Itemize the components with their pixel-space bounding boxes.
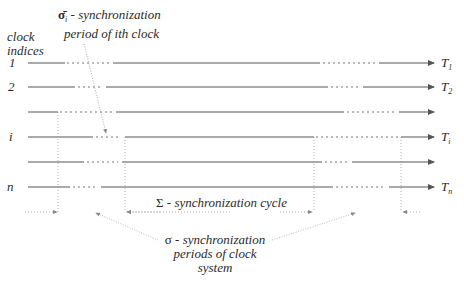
- clock-index-1: 1: [9, 56, 16, 70]
- target-T2: T2: [441, 80, 452, 99]
- axis-label: clock indices: [7, 30, 44, 58]
- sigma-i-pointer: [84, 44, 106, 133]
- clock-index-n: n: [7, 180, 14, 194]
- clock-index-2: 2: [8, 80, 15, 94]
- target-T1: T1: [441, 56, 452, 75]
- sigma-pointer-right: [272, 213, 355, 240]
- target-Ti: Ti: [441, 130, 450, 149]
- axis-label-line1: clock: [7, 30, 44, 44]
- sigma-i-annotation: σ̄i - synchronization period of ith cloc…: [58, 8, 161, 41]
- clock-index-i: i: [9, 130, 13, 144]
- target-Tn: Tn: [441, 180, 452, 199]
- sigma-system-annotation: σ - synchronization periods of clock sys…: [150, 233, 280, 275]
- sigma-pointer-left: [96, 213, 158, 240]
- sigma-cycle-label: Σ - synchronization cycle: [156, 196, 287, 210]
